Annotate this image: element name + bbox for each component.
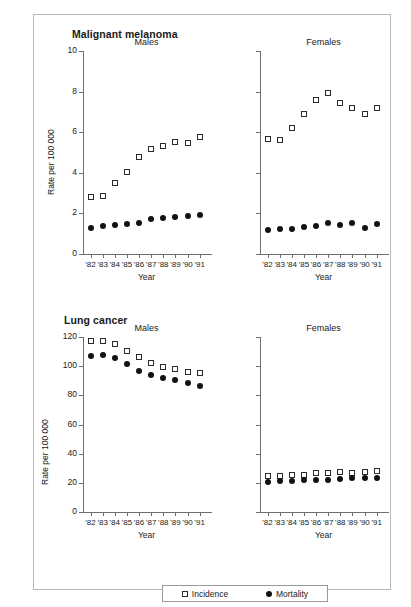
data-point-mortality: [160, 215, 166, 221]
x-axis-tick: [91, 512, 92, 516]
x-axis-tick: [377, 254, 378, 258]
data-point-mortality: [325, 220, 331, 226]
data-point-incidence: [185, 369, 191, 375]
y-axis-tick: [79, 454, 83, 455]
x-axis-tick: [200, 254, 201, 258]
y-axis-tick: [256, 92, 260, 93]
y-axis-line: [260, 51, 261, 254]
legend: Incidence Mortality: [162, 585, 328, 602]
y-axis-line: [83, 51, 84, 254]
x-axis-tick: [340, 512, 341, 516]
data-point-incidence: [197, 134, 203, 140]
panel-subtitle: Females: [256, 37, 391, 47]
x-axis-tick: [91, 254, 92, 258]
data-point-mortality: [265, 479, 271, 485]
data-point-mortality: [160, 375, 166, 381]
legend-label-incidence: Incidence: [192, 589, 228, 599]
x-axis-tick: [268, 254, 269, 258]
open-square-icon: [182, 591, 188, 597]
data-point-incidence: [112, 341, 118, 347]
data-point-mortality: [88, 225, 94, 231]
y-axis-tick: [79, 366, 83, 367]
x-axis-tick: [188, 512, 189, 516]
y-axis-tick: [256, 395, 260, 396]
panel-lung-males: Males020406080100120'82'83'84'85'86'87'8…: [79, 323, 214, 534]
data-point-incidence: [349, 105, 355, 111]
y-axis-tick-label: 120: [47, 331, 77, 341]
data-point-mortality: [185, 380, 191, 386]
data-point-mortality: [277, 478, 283, 484]
data-point-incidence: [136, 154, 142, 160]
data-point-incidence: [185, 140, 191, 146]
x-axis-tick: [304, 254, 305, 258]
panel-subtitle: Females: [256, 323, 391, 333]
data-point-incidence: [160, 143, 166, 149]
y-axis-tick-label: 10: [47, 45, 77, 55]
data-point-incidence: [325, 470, 331, 476]
data-point-incidence: [313, 97, 319, 103]
x-axis-tick: [115, 512, 116, 516]
data-point-incidence: [337, 469, 343, 475]
x-axis-tick: [268, 512, 269, 516]
y-axis-tick: [79, 173, 83, 174]
data-point-mortality: [148, 216, 154, 222]
y-axis-tick-label: 20: [47, 477, 77, 487]
x-axis-tick: [316, 512, 317, 516]
data-point-mortality: [197, 212, 203, 218]
y-axis-tick: [256, 454, 260, 455]
data-point-incidence: [88, 338, 94, 344]
data-point-mortality: [185, 213, 191, 219]
y-axis-tick: [256, 366, 260, 367]
y-axis-tick-label: 80: [47, 389, 77, 399]
x-axis-tick: [280, 512, 281, 516]
data-point-incidence: [148, 360, 154, 366]
panel-melanoma-females: Females'82'83'84'85'86'87'88'89'90'91Yea…: [256, 37, 391, 276]
x-axis-tick: [365, 254, 366, 258]
filled-circle-icon: [266, 591, 272, 597]
legend-item-incidence: Incidence: [182, 589, 228, 599]
y-axis-line: [83, 337, 84, 512]
data-point-mortality: [88, 353, 94, 359]
y-axis-tick: [256, 483, 260, 484]
data-point-mortality: [313, 477, 319, 483]
y-axis-tick: [79, 395, 83, 396]
x-axis-tick: [151, 254, 152, 258]
y-axis-tick-label: 40: [47, 448, 77, 458]
data-point-incidence: [374, 468, 380, 474]
data-point-incidence: [148, 146, 154, 152]
x-axis-tick: [304, 512, 305, 516]
data-point-incidence: [337, 100, 343, 106]
data-point-mortality: [265, 227, 271, 233]
data-point-mortality: [136, 220, 142, 226]
x-axis-tick: [175, 254, 176, 258]
y-axis-tick: [256, 173, 260, 174]
data-point-incidence: [172, 366, 178, 372]
x-axis-tick: [365, 512, 366, 516]
x-axis-tick: [328, 254, 329, 258]
data-point-mortality: [337, 222, 343, 228]
figure-frame: Malignant melanoma Lung cancer Rate per …: [33, 14, 391, 590]
data-point-mortality: [313, 223, 319, 229]
legend-label-mortality: Mortality: [276, 589, 308, 599]
data-point-incidence: [325, 90, 331, 96]
y-axis-tick: [79, 213, 83, 214]
x-axis-tick: [200, 512, 201, 516]
data-point-incidence: [136, 354, 142, 360]
x-axis-tick: [139, 512, 140, 516]
y-axis-label-melanoma: Rate per 100 000: [46, 129, 56, 195]
data-point-incidence: [265, 136, 271, 142]
data-point-mortality: [112, 222, 118, 228]
x-axis-tick: [163, 512, 164, 516]
y-axis-tick-label: 2: [47, 207, 77, 217]
y-axis-tick: [256, 425, 260, 426]
data-point-mortality: [325, 477, 331, 483]
x-axis-tick: [292, 512, 293, 516]
y-axis-line: [260, 337, 261, 512]
x-axis-title: Year: [256, 530, 391, 540]
panel-melanoma-males: Males0246810'82'83'84'85'86'87'88'89'90'…: [79, 37, 214, 276]
data-point-incidence: [301, 111, 307, 117]
y-axis-tick-label: 0: [47, 248, 77, 258]
y-axis-tick: [79, 337, 83, 338]
y-axis-tick: [79, 92, 83, 93]
x-axis-tick: [151, 512, 152, 516]
